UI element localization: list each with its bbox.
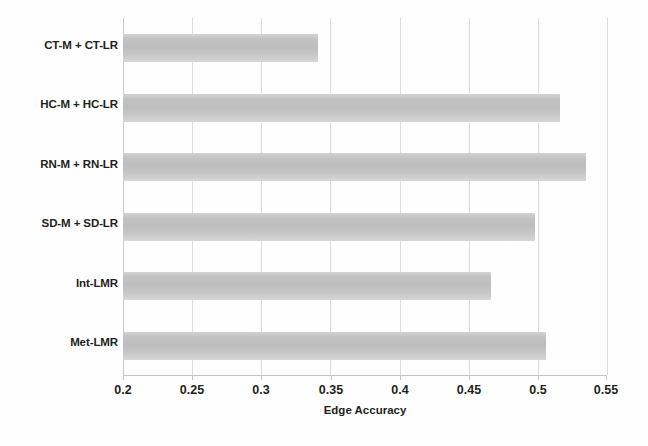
x-tick [331, 375, 332, 380]
x-tick-label: 0.55 [594, 383, 618, 397]
bar-row [123, 18, 607, 78]
bar-row [123, 78, 607, 138]
category-label: SD-M + SD-LR [0, 217, 118, 229]
x-tick [123, 375, 124, 380]
bar-met-lmr [123, 332, 546, 360]
category-label: HC-M + HC-LR [0, 98, 118, 110]
bar-sd-m-sd-lr [123, 213, 535, 241]
bar-row [123, 197, 607, 257]
bar-rn-m-rn-lr [123, 153, 586, 181]
x-tick [538, 375, 539, 380]
bar-ct-m-ct-lr [123, 34, 318, 62]
x-tick-label: 0.35 [319, 383, 343, 397]
plot-area [123, 18, 607, 375]
x-tick [261, 375, 262, 380]
x-tick-label: 0.2 [114, 383, 131, 397]
gridline-0.55 [607, 18, 608, 375]
x-tick [469, 375, 470, 380]
category-label: RN-M + RN-LR [0, 158, 118, 170]
bar-chart: CT-M + CT-LR HC-M + HC-LR RN-M + RN-LR S… [0, 0, 648, 446]
category-axis-labels: CT-M + CT-LR HC-M + HC-LR RN-M + RN-LR S… [0, 18, 118, 375]
category-label: CT-M + CT-LR [0, 39, 118, 51]
x-tick [606, 375, 607, 380]
bar-row [123, 137, 607, 197]
bar-int-lmr [123, 272, 491, 300]
bar-row [123, 256, 607, 316]
x-tick [400, 375, 401, 380]
x-axis-rule [123, 375, 607, 376]
bar-row [123, 316, 607, 376]
x-tick [192, 375, 193, 380]
category-label: Met-LMR [0, 336, 118, 348]
x-axis-title: Edge Accuracy [123, 404, 607, 416]
x-tick-label: 0.4 [391, 383, 408, 397]
x-tick-label: 0.45 [457, 383, 481, 397]
category-label: Int-LMR [0, 277, 118, 289]
x-tick-label: 0.25 [180, 383, 204, 397]
bar-hc-m-hc-lr [123, 94, 560, 122]
x-tick-label: 0.3 [252, 383, 269, 397]
x-tick-label: 0.5 [529, 383, 546, 397]
